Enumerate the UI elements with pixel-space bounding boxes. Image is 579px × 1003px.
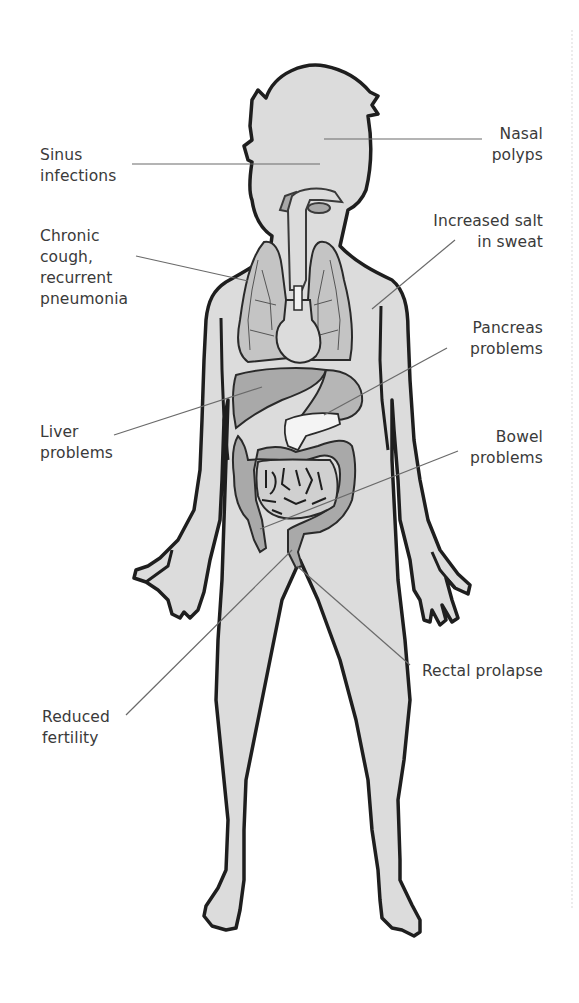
diagram-canvas: Sinus infections Nasal polyps Chronic co… — [0, 0, 579, 1003]
label-reduced-fertility: Reduced fertility — [42, 707, 110, 749]
label-liver-problems: Liver problems — [40, 422, 113, 464]
label-increased-salt: Increased salt in sweat — [433, 211, 543, 253]
label-pancreas-problems: Pancreas problems — [470, 318, 543, 360]
label-sinus-infections: Sinus infections — [40, 145, 116, 187]
small-intestine-icon — [257, 460, 338, 519]
leader-cough — [136, 256, 248, 281]
label-rectal-prolapse: Rectal prolapse — [422, 661, 543, 682]
label-chronic-cough: Chronic cough, recurrent pneumonia — [40, 226, 128, 310]
heart-vessel — [294, 286, 302, 310]
tongue-icon — [308, 203, 330, 213]
label-nasal-polyps: Nasal polyps — [492, 124, 543, 166]
label-bowel-problems: Bowel problems — [470, 427, 543, 469]
page-edge-artifact — [571, 30, 573, 910]
